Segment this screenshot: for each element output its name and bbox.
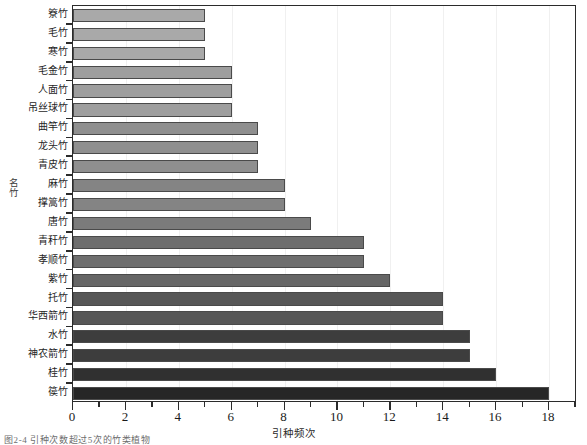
x-axis-minor-tick [151, 402, 152, 407]
x-axis-minor-tick [98, 402, 99, 407]
bar [73, 330, 470, 343]
bar [73, 9, 205, 22]
bar [73, 84, 232, 97]
y-axis-tick [66, 118, 73, 120]
y-axis-tick [66, 307, 73, 309]
bar [73, 141, 258, 154]
x-axis-minor-tick [310, 402, 311, 407]
bar-row [73, 63, 575, 82]
y-axis-tick [66, 212, 73, 214]
y-axis-tick-label: 青皮竹 [38, 159, 68, 171]
bar [73, 387, 549, 400]
bar [73, 236, 364, 249]
x-axis-tick-label: 2 [122, 409, 129, 425]
bar-row [73, 252, 575, 271]
y-axis-tick-label: 水竹 [48, 329, 68, 341]
x-axis-tick-label: 0 [69, 409, 76, 425]
x-axis-minor-tick [522, 402, 523, 407]
y-axis-tick-label: 寒竹 [48, 46, 68, 58]
bar-row [73, 44, 575, 63]
bar [73, 28, 205, 41]
y-axis-tick [66, 99, 73, 101]
bar-row [73, 25, 575, 44]
y-axis-tick-label: 麻竹 [48, 178, 68, 190]
bar-row [73, 195, 575, 214]
x-axis-minor-tick [469, 402, 470, 407]
x-axis-tick-label: 8 [280, 409, 287, 425]
bar [73, 292, 443, 305]
bar-row [73, 346, 575, 365]
y-axis-tick [66, 193, 73, 195]
bar-row [73, 365, 575, 384]
bar [73, 47, 205, 60]
y-axis-tick-label: 桂竹 [48, 367, 68, 379]
y-axis-tick-label: 龙头竹 [38, 140, 68, 152]
bar-row [73, 214, 575, 233]
y-axis-tick-label: 吊丝球竹 [28, 102, 68, 114]
x-axis-minor-tick [204, 402, 205, 407]
y-axis-tick-label: 人面竹 [38, 84, 68, 96]
bar [73, 349, 470, 362]
y-axis-tick [66, 137, 73, 139]
y-axis-tick [66, 61, 73, 63]
y-axis-tick-label: 簝竹 [48, 8, 68, 20]
y-axis-tick [66, 155, 73, 157]
y-axis-tick [66, 269, 73, 271]
y-axis-tick-label: 曲竿竹 [38, 121, 68, 133]
bar-row [73, 327, 575, 346]
plot-area [72, 5, 576, 402]
y-axis-tick [66, 80, 73, 82]
bar-row [73, 138, 575, 157]
y-axis-tick [66, 42, 73, 44]
bar [73, 179, 285, 192]
y-axis-tick [66, 288, 73, 290]
y-axis-tick-label: 毛竹 [48, 27, 68, 39]
y-axis-tick-label: 孝顺竹 [38, 254, 68, 266]
bar-row [73, 290, 575, 309]
bar-row [73, 308, 575, 327]
x-axis-tick-label: 4 [175, 409, 182, 425]
bar [73, 103, 232, 116]
y-axis-tick [66, 174, 73, 176]
bar [73, 66, 232, 79]
y-axis-tick-label: 篌竹 [48, 386, 68, 398]
bar [73, 198, 285, 211]
bar-row [73, 271, 575, 290]
bar-row [73, 384, 575, 403]
y-axis-tick [66, 382, 73, 384]
x-axis-minor-tick [257, 402, 258, 407]
y-axis-tick-label: 撑篙竹 [38, 197, 68, 209]
y-axis-tick-label: 神农箭竹 [28, 348, 68, 360]
bar-row [73, 119, 575, 138]
bar-row [73, 82, 575, 101]
y-axis-tick [66, 326, 73, 328]
x-axis-tick-label: 12 [383, 409, 396, 425]
x-axis-tick-label: 14 [436, 409, 449, 425]
bar-chart-figure: 名竹 引种频次 图2-4 引种次数超过5次的竹类植物 簝竹毛竹寒竹毛金竹人面竹吊… [0, 0, 587, 445]
bar [73, 274, 390, 287]
bar [73, 160, 258, 173]
y-axis-tick-label: 托竹 [48, 292, 68, 304]
y-axis-tick-label: 青秆竹 [38, 235, 68, 247]
x-axis-minor-tick [363, 402, 364, 407]
bar-row [73, 101, 575, 120]
bar [73, 122, 258, 135]
x-axis-tick-label: 6 [227, 409, 234, 425]
x-axis-tick-label: 18 [542, 409, 555, 425]
bar [73, 255, 364, 268]
bar [73, 217, 311, 230]
y-axis-tick-label: 华西箭竹 [28, 310, 68, 322]
y-axis-tick [66, 23, 73, 25]
bar [73, 368, 496, 381]
y-axis-tick [66, 231, 73, 233]
y-axis-tick-label: 毛金竹 [38, 65, 68, 77]
y-axis-tick [66, 363, 73, 365]
x-axis-minor-tick [574, 402, 575, 407]
x-axis-tick-label: 10 [330, 409, 343, 425]
bar-row [73, 6, 575, 25]
y-axis-tick-label: 唐竹 [48, 216, 68, 228]
bar-row [73, 233, 575, 252]
x-axis-tick-label: 16 [489, 409, 502, 425]
figure-caption: 图2-4 引种次数超过5次的竹类植物 [4, 433, 151, 445]
y-axis-tick-label: 紫竹 [48, 273, 68, 285]
